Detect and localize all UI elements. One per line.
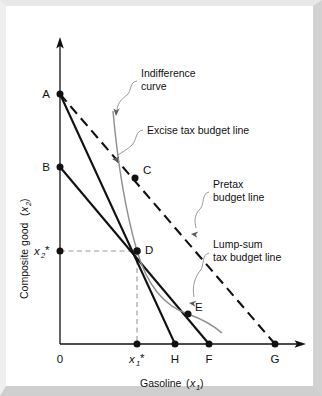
annotation-indifference-curve: Indifference curve: [113, 67, 195, 116]
point-marker-x2star: [57, 248, 64, 255]
annotation-excise-tax-budget-line: Excise tax budget line: [112, 124, 249, 163]
y-axis-title: Composite good ( x 2 ): [18, 199, 33, 300]
point-label-E: E: [195, 301, 203, 313]
x-tick-x1star-var: x: [128, 353, 136, 365]
y-axis-title-var: x: [18, 206, 30, 213]
point-label-D: D: [145, 244, 153, 256]
annotation-indifference-curve-leader: [117, 81, 137, 110]
annotation-lump-sum-line1: Lump-sum: [213, 238, 263, 250]
lump-sum-tax-budget-line: [60, 167, 209, 344]
x-axis-title: Gasoline ( x 1 ): [140, 377, 204, 392]
annotation-indifference-curve-arrowhead-icon: [113, 108, 119, 116]
annotation-pretax-budget-line: Pretax budget line: [191, 178, 265, 238]
x-tick-F: F: [205, 353, 212, 365]
guide-lines-group: [60, 251, 137, 344]
x-tick-origin: 0: [57, 353, 63, 365]
point-marker-A: [57, 91, 64, 98]
x-tick-G: G: [271, 353, 280, 365]
annotation-pretax-line1: Pretax: [213, 178, 244, 190]
annotation-pretax-line2: budget line: [213, 191, 265, 203]
indifference-curve: [113, 111, 222, 333]
x-tick-x1star: x 1 *: [128, 352, 145, 368]
annotation-excise-tax-leader: [118, 130, 143, 155]
annotation-lump-sum-line2: tax budget line: [213, 251, 281, 263]
point-label-B: B: [42, 161, 50, 173]
point-label-A: A: [42, 88, 50, 100]
point-marker-D: [133, 247, 141, 255]
point-marker-C: [132, 175, 139, 182]
point-label-C: C: [143, 164, 151, 176]
point-marker-H: [172, 341, 179, 348]
x-axis-title-main: Gasoline: [140, 377, 182, 389]
x-axis-title-paren-close: ): [200, 377, 204, 389]
point-marker-F: [206, 341, 213, 348]
annotation-lump-sum-tax-budget-line: Lump-sum tax budget line: [189, 238, 281, 307]
point-marker-E: [185, 311, 192, 318]
annotation-pretax-arrowhead-icon: [191, 232, 198, 238]
annotation-indifference-curve-line2: curve: [141, 80, 167, 92]
figure-canvas: A B C D E 0 x 1 * H F G x 2 * Gasol: [6, 6, 322, 396]
y-axis-title-main: Composite good: [18, 222, 30, 299]
axes-group: [56, 37, 306, 348]
figure-frame: A B C D E 0 x 1 * H F G x 2 * Gasol: [0, 0, 322, 396]
point-marker-B: [57, 164, 64, 171]
x-tick-x1star-asterisk: *: [140, 352, 145, 364]
x-tick-H: H: [171, 353, 179, 365]
x-axis-title-var: x: [189, 377, 196, 389]
y-tick-x2star-var: x: [33, 245, 41, 257]
annotation-indifference-curve-line1: Indifference: [141, 67, 196, 79]
annotation-pretax-leader: [195, 192, 209, 228]
y-tick-x2star-asterisk: *: [45, 244, 50, 256]
economics-budget-line-chart: A B C D E 0 x 1 * H F G x 2 * Gasol: [6, 6, 322, 396]
y-tick-x2star: x 2 *: [33, 244, 50, 260]
point-marker-x1star: [134, 341, 141, 348]
annotation-excise-tax-line1: Excise tax budget line: [147, 124, 249, 136]
y-axis-title-paren-close: ): [18, 199, 30, 203]
point-marker-G: [272, 341, 279, 348]
